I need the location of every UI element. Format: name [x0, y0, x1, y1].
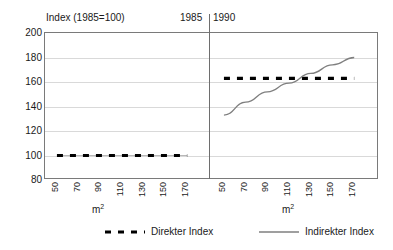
series-line-indirekter-index — [224, 58, 354, 116]
chart-legend: Direkter Index Indirekter Index — [0, 226, 393, 246]
x-axis-tick-1985-130: 130 — [138, 182, 147, 197]
x-axis-tick-1990-50: 50 — [218, 182, 227, 192]
x-axis-tick-1990-130: 130 — [305, 182, 314, 197]
y-axis-tick-100: 100 — [2, 149, 42, 160]
x-axis-tick-1990-150: 150 — [326, 182, 335, 197]
x-axis-tick-1985-90: 90 — [94, 182, 103, 192]
x-axis-tick-1990-90: 90 — [261, 182, 270, 192]
chart-title: Index (1985=100) — [46, 12, 125, 23]
x-axis-tick-1990-170: 170 — [348, 182, 357, 197]
y-axis-tick-120: 120 — [2, 125, 42, 136]
y-axis-tick-140: 140 — [2, 100, 42, 111]
legend-swatch-dashed — [104, 227, 146, 237]
x-axis-tick-1985-110: 110 — [116, 182, 125, 196]
x-axis-tick-1990-70: 70 — [240, 182, 249, 192]
chart-container: Index (1985=100) 1985 1990 2001801601401… — [0, 0, 393, 250]
panel-label-1985: 1985 — [180, 12, 202, 23]
legend-label-direkter-index: Direkter Index — [151, 226, 213, 237]
x-axis-tick-1985-170: 170 — [181, 182, 190, 197]
panel-1985-series — [45, 33, 210, 178]
panel-divider — [209, 14, 210, 179]
legend-label-indirekter-index: Indirekter Index — [305, 226, 374, 237]
legend-swatch-solid — [258, 227, 300, 237]
x-axis-tick-1985-70: 70 — [73, 182, 82, 192]
y-axis-tick-180: 180 — [2, 51, 42, 62]
x-axis-tick-1985-150: 150 — [159, 182, 168, 197]
y-axis-tick-80: 80 — [2, 174, 42, 185]
y-axis-tick-200: 200 — [2, 27, 42, 38]
x-axis-tick-1985-50: 50 — [51, 182, 60, 192]
panel-1990-series — [212, 33, 377, 178]
y-axis-tick-160: 160 — [2, 76, 42, 87]
x-axis-tick-1990-110: 110 — [283, 182, 292, 196]
panel-label-1990: 1990 — [213, 12, 235, 23]
x-axis-title-1990: m2 — [282, 203, 294, 215]
legend-item-indirekter-index: Indirekter Index — [258, 226, 374, 237]
plot-area — [44, 32, 378, 179]
y-axis: 20018016014012010080 — [0, 0, 42, 250]
x-axis-title-1985: m2 — [92, 203, 104, 215]
legend-item-direkter-index: Direkter Index — [104, 226, 213, 237]
